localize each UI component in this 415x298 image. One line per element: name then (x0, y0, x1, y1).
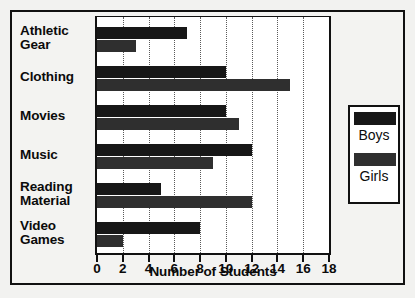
chart-frame: AthleticGearClothingMoviesMusicReadingMa… (10, 10, 405, 285)
x-axis-title: Number of Students (95, 264, 331, 279)
category-label-music: Music (20, 148, 98, 162)
category-label-line: Material (20, 194, 98, 208)
bar-girls-4 (97, 196, 252, 208)
bar-girls-0 (97, 40, 136, 52)
category-label-athletic-gear: AthleticGear (20, 24, 98, 52)
category-label-line: Reading (20, 180, 98, 194)
bars-group (97, 17, 329, 253)
category-label-video-games: VideoGames (20, 219, 98, 247)
category-label-line: Video (20, 219, 98, 233)
category-label-clothing: Clothing (20, 70, 98, 84)
bar-boys-1 (97, 66, 226, 78)
bar-girls-2 (97, 118, 239, 130)
category-label-reading-material: ReadingMaterial (20, 180, 98, 208)
legend-swatch-boys (354, 112, 396, 125)
bar-girls-5 (97, 235, 123, 247)
bar-girls-3 (97, 157, 213, 169)
bar-boys-3 (97, 144, 252, 156)
bar-boys-0 (97, 27, 187, 39)
bar-girls-1 (97, 79, 290, 91)
legend-label-girls: Girls (354, 166, 394, 186)
category-label-line: Athletic (20, 24, 98, 38)
category-label-line: Movies (20, 109, 98, 123)
legend-swatch-girls (354, 153, 396, 166)
category-axis-labels: AthleticGearClothingMoviesMusicReadingMa… (12, 12, 95, 283)
category-label-line: Games (20, 233, 98, 247)
bar-boys-4 (97, 183, 161, 195)
category-label-line: Gear (20, 38, 98, 52)
plot-area (95, 16, 331, 255)
category-label-movies: Movies (20, 109, 98, 123)
chart-figure: AthleticGearClothingMoviesMusicReadingMa… (0, 0, 415, 298)
bar-boys-2 (97, 105, 226, 117)
bar-boys-5 (97, 222, 200, 234)
legend-label-boys: Boys (354, 125, 394, 145)
chart-legend: BoysGirls (348, 105, 400, 204)
category-label-line: Clothing (20, 70, 98, 84)
category-label-line: Music (20, 148, 98, 162)
